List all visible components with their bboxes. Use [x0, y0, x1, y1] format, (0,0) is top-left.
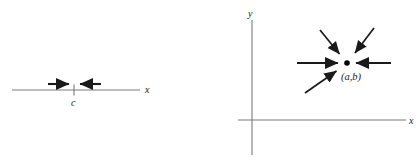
figure-coordinate-plane: (a,b) x y: [210, 0, 420, 162]
x-axis-label: x: [144, 84, 150, 95]
limit-point-dot: [344, 60, 350, 66]
y-axis-label: y: [247, 8, 253, 19]
arrow-from-upper-right-icon: [355, 28, 374, 53]
point-label-ab: (a,b): [341, 71, 362, 83]
figure-page: x c (a,b) x: [0, 0, 420, 162]
tick-label-c: c: [71, 97, 76, 108]
x-axis-label: x: [408, 115, 414, 126]
arrow-from-lower-left-icon: [305, 71, 337, 93]
figure-number-line: x c: [0, 0, 210, 162]
arrow-from-upper-left-icon: [320, 30, 340, 54]
